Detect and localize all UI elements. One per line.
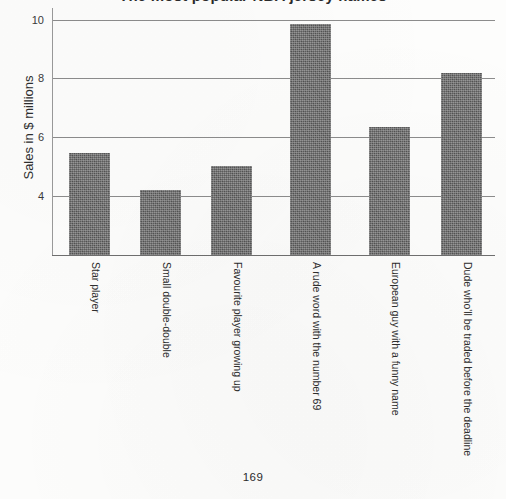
- category-label-rude-word-69: A rude word with the number 69: [312, 262, 323, 410]
- bar-small-double: [140, 190, 181, 255]
- bar-rude-word-69: [290, 24, 331, 255]
- y-axis-title: Sales in $ millions: [21, 48, 36, 208]
- gridline-4: [52, 196, 495, 197]
- page-number: 169: [0, 471, 506, 483]
- category-label-slot-3: Favourite player growing up: [231, 262, 245, 492]
- gridline-6: [52, 137, 495, 138]
- category-label-slot-1: Star player: [89, 262, 103, 492]
- category-label-star-player: Star player: [91, 262, 102, 313]
- category-label-slot-5: European guy with a funny name: [389, 262, 403, 492]
- bar-favourite-player: [211, 166, 252, 255]
- bar-star-player: [69, 153, 110, 255]
- scanned-page: The most popular NBA jersey names 10 8 6…: [0, 0, 506, 499]
- category-label-favourite-player: Favourite player growing up: [233, 262, 244, 392]
- bar-chart: 10 8 6 4 Sales in $ millions Star player…: [0, 0, 506, 460]
- y-axis-line: [52, 8, 53, 256]
- category-label-traded-before-deadline: Dude who'll be traded before the deadlin…: [463, 262, 474, 456]
- category-label-slot-4: A rude word with the number 69: [310, 262, 324, 492]
- ytick-label-10: 10: [14, 15, 44, 26]
- category-label-european-guy: European guy with a funny name: [391, 262, 402, 416]
- category-label-slot-2: Small double-double: [160, 262, 174, 492]
- bar-european-guy: [369, 127, 410, 255]
- gridline-10: [52, 20, 495, 21]
- category-label-slot-6: Dude who'll be traded before the deadlin…: [461, 262, 475, 492]
- bar-traded-before-deadline: [441, 73, 482, 255]
- x-axis-baseline: [52, 255, 495, 256]
- gridline-8: [52, 78, 495, 79]
- category-label-small-double: Small double-double: [162, 262, 173, 358]
